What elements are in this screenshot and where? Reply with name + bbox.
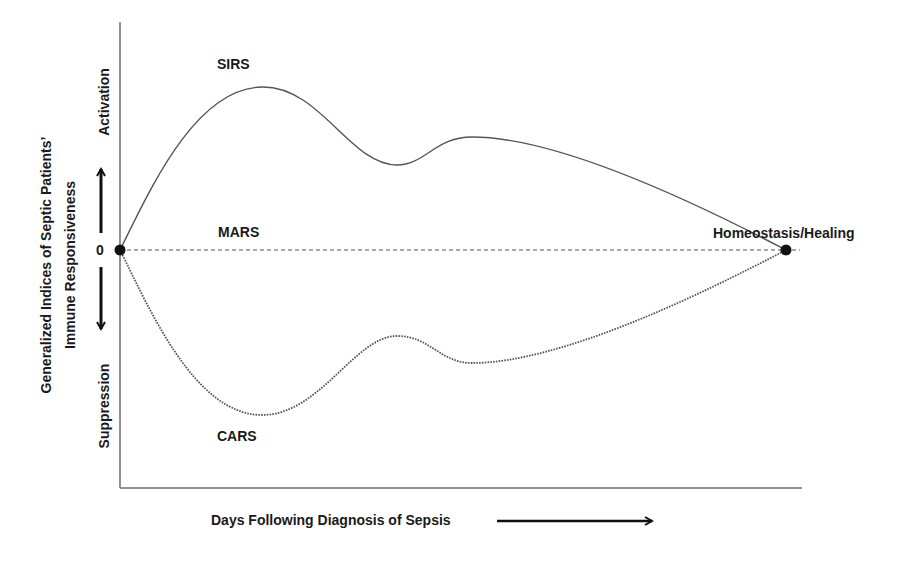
x-axis-title: Days Following Diagnosis of Sepsis [211,512,451,528]
origin-marker [115,245,126,256]
mars-label: MARS [218,224,259,240]
sirs-label: SIRS [217,56,250,72]
suppression-label: Suppression [96,364,112,449]
homeostasis-marker [781,245,792,256]
sepsis-immune-response-diagram: SIRS MARS CARS Homeostasis/Healing 0 Act… [0,0,906,562]
cars-curve [120,250,786,415]
y-axis-title-line2: Immune Responsiveness [62,181,78,349]
diagram-canvas [0,0,906,562]
y-axis-title-line1: Generalized Indices of Septic Patients’ [38,137,54,394]
activation-label: Activation [96,68,112,136]
zero-tick-label: 0 [96,242,104,258]
cars-label: CARS [217,428,257,444]
homeostasis-label: Homeostasis/Healing [713,225,855,241]
